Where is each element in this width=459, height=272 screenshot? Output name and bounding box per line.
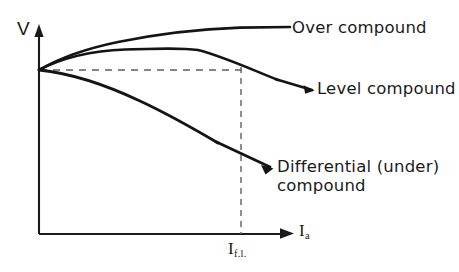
curve-label-over-compound: Over compound bbox=[292, 18, 427, 37]
curve-label-differential-line1: Differential (under) bbox=[277, 157, 439, 176]
plot-canvas bbox=[0, 0, 459, 272]
curve-label-level-compound: Level compound bbox=[317, 79, 456, 98]
curve-label-differential-line2: compound bbox=[277, 177, 439, 195]
leader-differential-compound bbox=[216, 142, 270, 167]
y-axis bbox=[34, 24, 43, 234]
x-axis bbox=[39, 228, 294, 238]
full-load-tick-subscript: f.l. bbox=[234, 248, 247, 259]
full-load-tick-label: If.l. bbox=[228, 240, 247, 262]
y-axis-label: V bbox=[17, 19, 30, 39]
x-axis-label-subscript: a bbox=[305, 230, 310, 241]
x-axis-label: Ia bbox=[299, 222, 310, 244]
curve-differential-compound bbox=[39, 70, 218, 143]
compound-generator-characteristic-figure: V Over compound Level compound Different… bbox=[0, 0, 459, 272]
curve-label-differential-compound: Differential (under)compound bbox=[277, 158, 439, 195]
